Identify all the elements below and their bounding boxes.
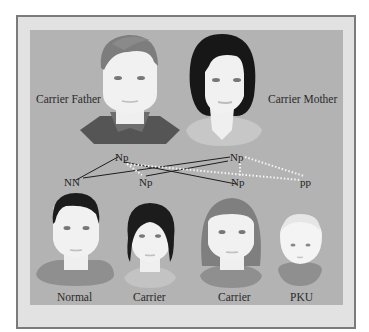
mother-genotype: Np [230,151,244,163]
father-genotype: Np [115,151,129,163]
pedigree-final: Carrier Father Carrier Mother Np Np NN N… [0,0,369,332]
offspring-genotype-2: Np [139,176,153,188]
mother-left-eye [212,78,220,82]
child-pku [278,214,322,286]
father-left-eye [114,76,122,80]
mother-face [205,55,244,114]
child-carrier-2 [200,198,262,288]
child-label-normal: Normal [57,291,92,303]
mother-right-eye [233,78,241,82]
mother-figure [186,34,262,146]
child-label-carrier-1: Carrier [133,291,166,303]
offspring-genotype-1: NN [64,176,80,188]
offspring-genotype-4: pp [300,176,312,188]
father-label: Carrier Father [36,93,101,105]
child-label-pku: PKU [290,291,314,303]
child-label-carrier-2: Carrier [218,291,251,303]
mother-mouth [218,102,232,103]
offspring-genotype-3: Np [231,176,245,188]
mother-label: Carrier Mother [268,93,337,105]
child-carrier-1 [124,203,176,288]
father-right-eye [137,76,145,80]
